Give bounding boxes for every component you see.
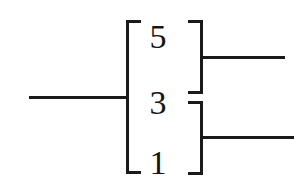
upper-close-bracket: [188, 22, 202, 93]
diagram-canvas: 5 3 1: [0, 0, 294, 182]
group-entry-value-1: 1: [141, 146, 175, 180]
open-bracket: [128, 22, 142, 173]
group-entry-value-3: 3: [141, 86, 175, 120]
lower-close-bracket: [188, 103, 202, 174]
group-entry-value-5: 5: [141, 20, 175, 54]
